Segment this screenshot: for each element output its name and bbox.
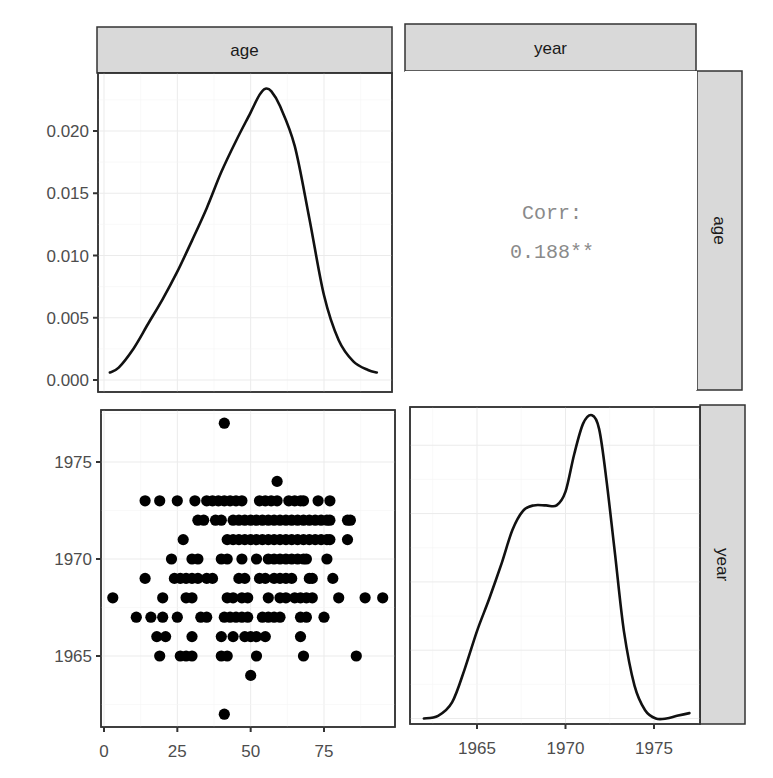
scatter-point <box>286 573 297 584</box>
scatter-point <box>157 592 168 603</box>
x-axis-tick-label: 50 <box>241 742 260 761</box>
scatter-point <box>157 612 168 623</box>
scatter-point <box>251 553 262 564</box>
corr-value: 0.188** <box>510 241 594 264</box>
scatter-point <box>324 515 335 526</box>
scatter-point <box>333 592 344 603</box>
scatter-point <box>298 495 309 506</box>
scatter-point <box>172 495 183 506</box>
scatter-point <box>154 495 165 506</box>
scatter-point <box>192 553 203 564</box>
scatter-point <box>324 495 335 506</box>
scatter-point <box>222 553 233 564</box>
scatter-point <box>216 515 227 526</box>
scatter-point <box>131 612 142 623</box>
scatter-point <box>295 631 306 642</box>
scatter-point <box>321 553 332 564</box>
scatter-point <box>145 612 156 623</box>
y-axis-tick-label: 0.005 <box>46 309 89 328</box>
scatter-point <box>242 612 253 623</box>
scatter-point <box>219 418 230 429</box>
scatter-point <box>140 495 151 506</box>
panel-correlation <box>405 71 697 390</box>
strip-top-age-label: age <box>230 41 258 60</box>
scatter-point <box>107 592 118 603</box>
strip-top-year: year <box>405 24 696 71</box>
scatter-point <box>301 553 312 564</box>
x-axis-tick-label: 75 <box>315 742 334 761</box>
strip-right-year: year <box>700 405 745 724</box>
scatter-point <box>178 534 189 545</box>
scatter-point <box>140 573 151 584</box>
scatter-point <box>160 631 171 642</box>
scatter-point <box>274 612 285 623</box>
scatter-point <box>327 573 338 584</box>
scatter-point <box>228 631 239 642</box>
y-axis-tick-label: 1975 <box>54 453 92 472</box>
strip-top-year-label: year <box>534 39 567 58</box>
scatter-point <box>345 515 356 526</box>
y-axis-tick-label: 0.010 <box>46 247 89 266</box>
strip-top-age: age <box>97 27 392 73</box>
scatter-point <box>272 476 283 487</box>
scatter-point <box>313 495 324 506</box>
scatter-point <box>360 592 371 603</box>
x-axis-tick-label: 1975 <box>635 739 673 758</box>
scatter-point <box>245 670 256 681</box>
scatter-point <box>186 650 197 661</box>
scatter-point <box>307 592 318 603</box>
strip-right-age-label: age <box>710 216 729 244</box>
scatter-point <box>301 612 312 623</box>
scatter-point <box>272 495 283 506</box>
corr-label: Corr: <box>522 202 582 225</box>
scatter-point <box>377 592 388 603</box>
scatter-point <box>166 553 177 564</box>
scatter-point <box>239 573 250 584</box>
y-axis-tick-label: 1965 <box>54 647 92 666</box>
scatter-point <box>318 612 329 623</box>
x-axis-tick-label: 1970 <box>547 739 585 758</box>
scatter-point <box>222 650 233 661</box>
scatter-point <box>351 650 362 661</box>
y-axis-tick-label: 1970 <box>54 550 92 569</box>
scatter-point <box>154 650 165 661</box>
scatter-point <box>186 592 197 603</box>
scatter-point <box>201 612 212 623</box>
scatter-point <box>263 592 274 603</box>
y-axis-tick-label: 0.015 <box>46 184 89 203</box>
scatter-matrix-plot: age year age year Corr: 0.188** 0.0000.0… <box>0 0 773 778</box>
scatter-point <box>189 495 200 506</box>
scatter-point <box>219 709 230 720</box>
scatter-point <box>186 631 197 642</box>
strip-right-age: age <box>697 71 742 390</box>
scatter-point <box>236 495 247 506</box>
scatter-point <box>172 612 183 623</box>
x-axis-tick-label: 1965 <box>458 739 496 758</box>
panel-year-density <box>410 407 700 724</box>
y-axis-tick-label: 0.020 <box>46 122 89 141</box>
scatter-point <box>242 592 253 603</box>
y-axis-tick-label: 0.000 <box>46 371 89 390</box>
strip-right-year-label: year <box>713 548 732 581</box>
scatter-point <box>216 631 227 642</box>
scatter-point <box>324 534 335 545</box>
scatter-point <box>260 631 271 642</box>
scatter-point <box>307 573 318 584</box>
scatter-point <box>236 553 247 564</box>
scatter-point <box>207 573 218 584</box>
scatter-point <box>298 650 309 661</box>
x-axis-tick-label: 25 <box>168 742 187 761</box>
scatter-point <box>251 650 262 661</box>
x-axis-tick-label: 0 <box>99 742 108 761</box>
scatter-point <box>198 515 209 526</box>
scatter-point <box>342 534 353 545</box>
